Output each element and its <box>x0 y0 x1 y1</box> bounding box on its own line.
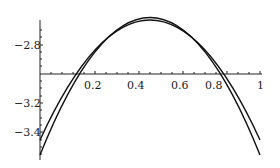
chart: 0.2 0.4 0.6 0.8 1 −2.8 −3.2 −3.4 <box>0 0 280 168</box>
curve-outer <box>40 18 260 156</box>
y-tick-label-neg-3-4: −3.4 <box>14 126 41 139</box>
x-tick-label-0-4: 0.4 <box>127 79 145 92</box>
y-tick-label-neg-2-8: −2.8 <box>14 39 41 52</box>
x-tick-label-1: 1 <box>257 79 264 92</box>
x-tick-label-0-2: 0.2 <box>84 79 102 92</box>
x-tick-label-0-8: 0.8 <box>205 79 223 92</box>
x-tick-label-0-6: 0.6 <box>171 79 189 92</box>
y-tick-label-neg-3-2: −3.2 <box>14 97 41 110</box>
curve-inner <box>40 20 260 140</box>
